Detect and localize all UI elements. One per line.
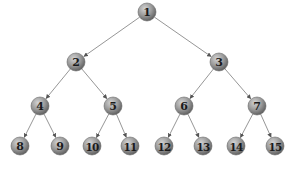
tree-node-15: 15: [266, 137, 284, 155]
tree-node-14: 14: [227, 137, 245, 155]
edge-5-to-10: [96, 114, 108, 138]
edge-5-to-11: [117, 114, 127, 137]
node-label: 13: [196, 141, 210, 153]
tree-node-7: 7: [248, 97, 266, 115]
node-label: 11: [123, 141, 137, 153]
edge-4-to-9: [44, 114, 56, 138]
tree-node-9: 9: [51, 137, 69, 155]
node-label: 14: [229, 141, 243, 153]
edge-6-to-13: [188, 114, 199, 137]
node-label: 3: [215, 56, 223, 69]
tree-node-12: 12: [155, 137, 173, 155]
edge-2-to-5: [82, 69, 107, 99]
tree-node-4: 4: [31, 97, 49, 115]
node-label: 15: [268, 141, 282, 153]
edges-layer: [24, 17, 271, 138]
node-label: 7: [253, 100, 261, 113]
tree-node-5: 5: [104, 97, 122, 115]
edge-3-to-6: [190, 69, 214, 99]
node-label: 5: [109, 100, 117, 113]
node-label: 10: [85, 141, 99, 153]
node-label: 6: [180, 100, 188, 113]
tree-node-1: 1: [138, 3, 156, 21]
tree-node-11: 11: [121, 137, 139, 155]
edge-2-to-4: [46, 69, 70, 99]
tree-node-13: 13: [194, 137, 212, 155]
node-label: 4: [36, 100, 44, 113]
edge-7-to-14: [240, 114, 252, 138]
node-label: 9: [56, 140, 64, 153]
edge-1-to-2: [84, 17, 140, 56]
edge-1-to-3: [154, 17, 211, 57]
edge-7-to-15: [261, 114, 271, 137]
node-label: 2: [72, 56, 80, 69]
tree-node-6: 6: [175, 97, 193, 115]
tree-node-10: 10: [83, 137, 101, 155]
node-label: 1: [143, 6, 151, 19]
node-label: 8: [16, 140, 24, 153]
edge-3-to-7: [225, 69, 251, 99]
tree-node-8: 8: [11, 137, 29, 155]
tree-node-2: 2: [67, 53, 85, 71]
edge-4-to-8: [24, 114, 36, 138]
tree-node-3: 3: [210, 53, 228, 71]
node-label: 12: [157, 141, 171, 153]
binary-tree-diagram: 123456789101112131415: [0, 0, 292, 170]
edge-6-to-12: [168, 114, 180, 138]
